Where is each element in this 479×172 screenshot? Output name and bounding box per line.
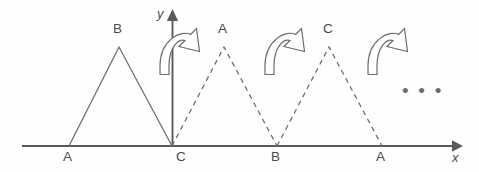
vertex-label-apex-2: A xyxy=(218,22,227,36)
figure-canvas: B A C A C B A y x • • • xyxy=(0,0,479,172)
triangle-2-outline xyxy=(172,47,277,146)
rotation-arrow-3-shape xyxy=(368,29,408,75)
vertex-label-base-1: A xyxy=(63,150,72,164)
y-axis-group xyxy=(167,9,178,146)
vertex-label-base-3: B xyxy=(271,150,280,164)
y-axis-arrowhead xyxy=(167,9,178,21)
vertex-label-base-2: C xyxy=(176,150,186,164)
x-axis-label: x xyxy=(452,151,459,165)
vertex-label-base-4: A xyxy=(376,150,385,164)
y-axis-label: y xyxy=(157,7,164,21)
vertex-label-apex-3: C xyxy=(323,22,333,36)
x-axis-group xyxy=(22,140,463,151)
rotation-arrow-2 xyxy=(265,29,305,75)
triangle-1 xyxy=(69,47,172,146)
rotation-arrow-2-shape xyxy=(265,29,305,75)
rotation-arrow-1-shape xyxy=(160,29,200,75)
triangle-3 xyxy=(277,47,382,146)
continuation-ellipsis: • • • xyxy=(402,86,444,96)
triangle-1-outline xyxy=(69,47,172,146)
rotation-arrow-1 xyxy=(160,29,200,75)
rotation-arrow-3 xyxy=(368,29,408,75)
vertex-label-apex-1: B xyxy=(113,22,122,36)
triangle-2 xyxy=(172,47,277,146)
triangle-3-outline xyxy=(277,47,382,146)
